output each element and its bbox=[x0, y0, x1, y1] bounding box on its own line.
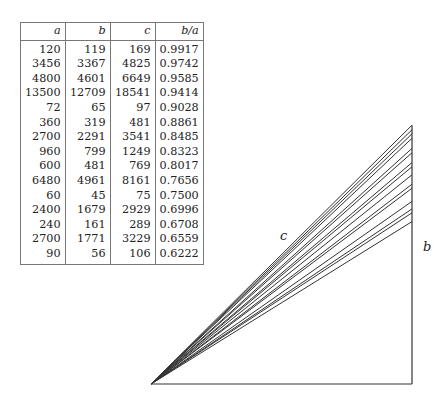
hypotenuse-line bbox=[151, 167, 412, 384]
hypotenuse-lines bbox=[151, 125, 412, 384]
label-c: c bbox=[280, 228, 288, 243]
hypotenuse-line bbox=[151, 175, 412, 384]
label-b: b bbox=[423, 239, 431, 254]
hypotenuse-line bbox=[151, 138, 412, 384]
triangle-diagram: c b bbox=[0, 0, 446, 407]
hypotenuse-line bbox=[151, 188, 412, 384]
hypotenuse-line bbox=[151, 153, 412, 384]
hypotenuse-line bbox=[151, 222, 412, 384]
